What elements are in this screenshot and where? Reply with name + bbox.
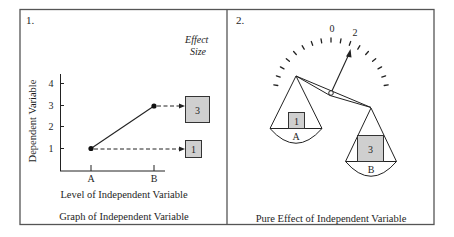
- pan-b-weight: 3: [368, 144, 373, 155]
- x-tick-a: A: [87, 173, 95, 184]
- effect-label-line1: Effect: [184, 34, 209, 45]
- dial-ticks: [274, 38, 388, 86]
- effect-size-label: Effect Size: [184, 34, 211, 57]
- panel-2-caption: Pure Effect of Independent Variable: [256, 213, 407, 224]
- pan-b-label: B: [368, 164, 375, 175]
- panel-1-graph: 1. Effect Size Dependent Variable 4 3 2 …: [26, 14, 211, 222]
- data-line: [91, 106, 154, 149]
- effect-box-low-value: 1: [191, 144, 196, 155]
- beam-pivot: [329, 91, 334, 96]
- dashed-arrows: [94, 106, 180, 149]
- diagram-canvas: 1. Effect Size Dependent Variable 4 3 2 …: [0, 0, 454, 237]
- dial-label-zero: 0: [330, 23, 335, 34]
- effect-box-high-value: 3: [195, 105, 200, 116]
- pan-a-weight: 1: [294, 116, 299, 127]
- y-tick-4: 4: [49, 78, 54, 89]
- dial-label-two: 2: [353, 27, 358, 38]
- panel-1-caption: Graph of Independent Variable: [59, 211, 189, 222]
- effect-label-line2: Size: [190, 46, 207, 57]
- pan-a-label: A: [292, 131, 300, 142]
- x-tick-b: B: [151, 173, 158, 184]
- pan-b: 3 B: [346, 108, 397, 176]
- dial-needle: [331, 54, 349, 93]
- x-axis-label: Level of Independent Variable: [60, 189, 188, 200]
- y-axis-label: Dependent Variable: [27, 79, 38, 162]
- panel-1-number: 1.: [26, 14, 35, 26]
- y-tick-1: 1: [49, 143, 54, 154]
- y-tick-3: 3: [49, 100, 54, 111]
- needle-arrowhead-icon: [346, 49, 352, 58]
- x-ticks: [91, 165, 154, 171]
- data-point-a: [88, 146, 93, 151]
- panel-2-scale: 2. 0 2: [236, 14, 407, 224]
- data-point-b: [151, 103, 156, 108]
- panel-2-number: 2.: [236, 14, 245, 26]
- arrowhead-high: [179, 104, 185, 109]
- arrowhead-low: [179, 147, 185, 152]
- y-tick-2: 2: [49, 121, 54, 132]
